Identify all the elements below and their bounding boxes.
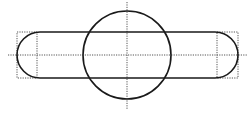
background <box>0 0 251 113</box>
diagram-canvas <box>0 0 251 113</box>
